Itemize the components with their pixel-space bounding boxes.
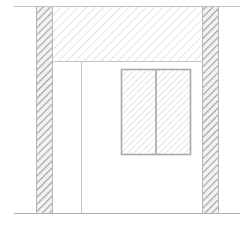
right-column: [202, 7, 219, 213]
left-column: [36, 7, 53, 213]
elevation-drawing: [0, 0, 247, 226]
window: [121, 69, 191, 155]
beam: [53, 7, 202, 62]
